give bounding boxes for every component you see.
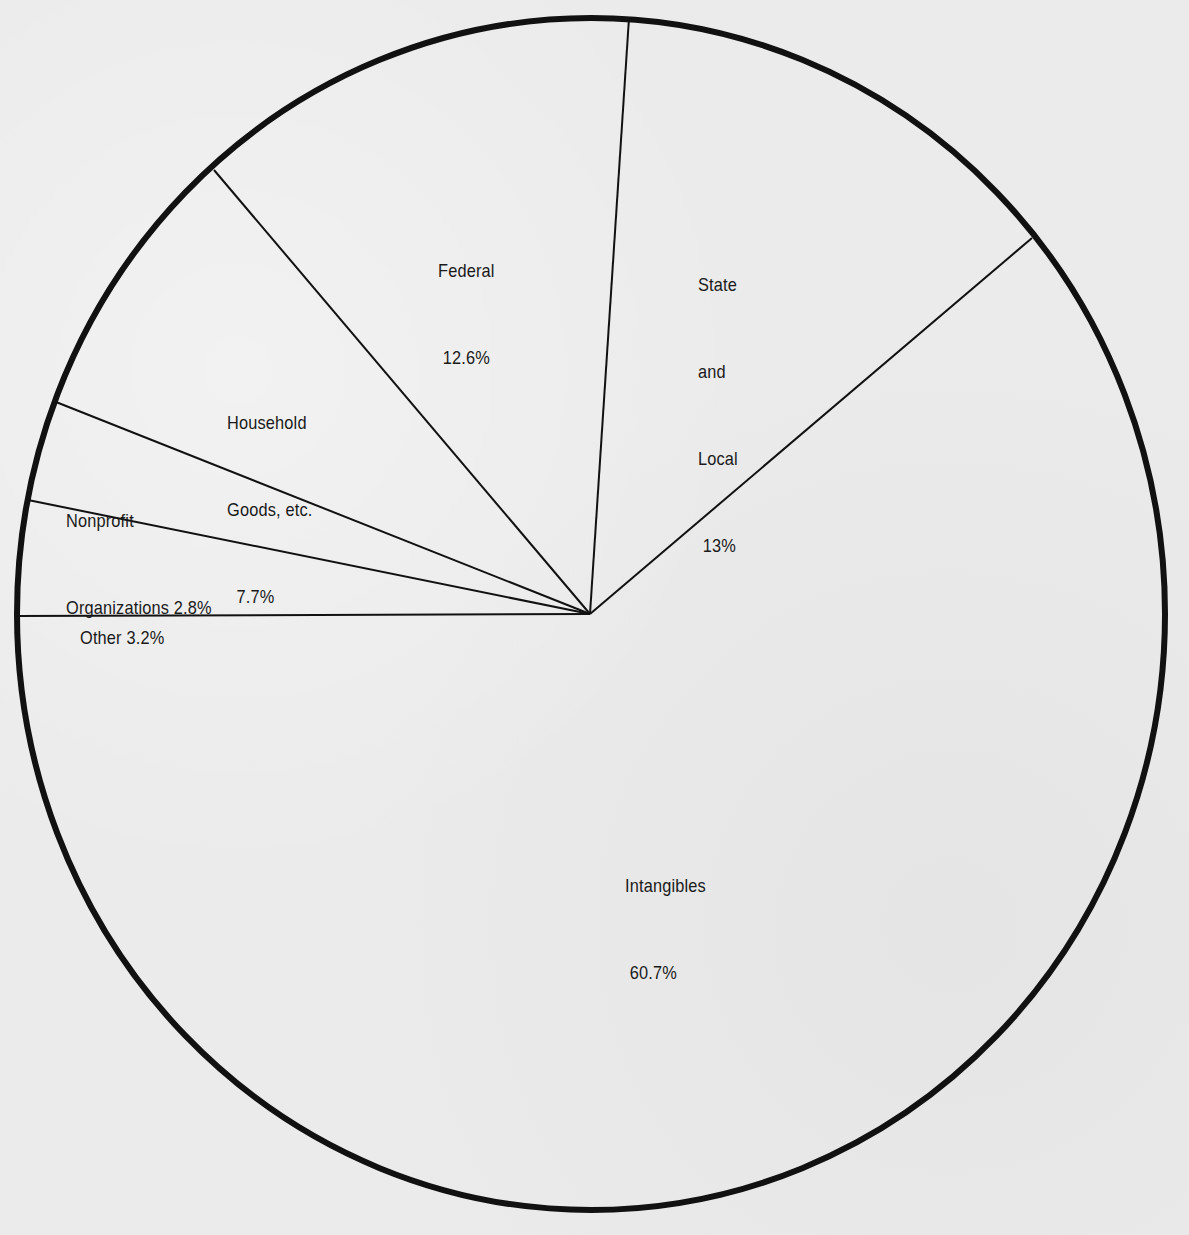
divider-state-intangibles — [590, 238, 1032, 614]
label-line: Federal — [438, 256, 495, 285]
label-line: Intangibles — [625, 871, 706, 900]
label-line: and — [698, 357, 738, 386]
label-line: Goods, etc. — [227, 495, 312, 524]
slice-label-other: Other 3.2% — [80, 565, 164, 681]
slice-label-state-and-local: State and Local 13% — [698, 212, 738, 589]
label-line: Household — [227, 408, 312, 437]
label-line: 7.7% — [227, 582, 312, 611]
label-line: 13% — [698, 531, 738, 560]
label-line: Nonprofit — [66, 506, 212, 535]
label-line: Local — [698, 444, 738, 473]
slice-label-intangibles: Intangibles 60.7% — [625, 813, 706, 1016]
label-line: Other 3.2% — [80, 623, 164, 652]
label-line: State — [698, 270, 738, 299]
slice-label-household-goods: Household Goods, etc. 7.7% — [227, 350, 312, 640]
label-line: 12.6% — [438, 343, 495, 372]
divider-federal-state — [590, 18, 629, 614]
slice-label-federal: Federal 12.6% — [438, 198, 495, 401]
label-line: 60.7% — [625, 958, 706, 987]
